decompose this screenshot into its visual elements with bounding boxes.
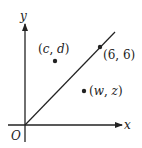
x-axis-label: x <box>124 118 131 132</box>
point-6-6-label: (6, 6) <box>103 48 135 62</box>
y-axis-label: y <box>19 9 27 23</box>
coordinate-diagram: y x O (6, 6) (c, d) (w, z) <box>0 0 142 148</box>
point-c-d-label: (c, d) <box>38 42 69 56</box>
point-6-6 <box>98 45 102 49</box>
origin-label: O <box>11 129 21 143</box>
point-w-z <box>82 89 86 93</box>
point-c-d <box>53 59 57 63</box>
point-w-z-label: (w, z) <box>89 84 123 98</box>
